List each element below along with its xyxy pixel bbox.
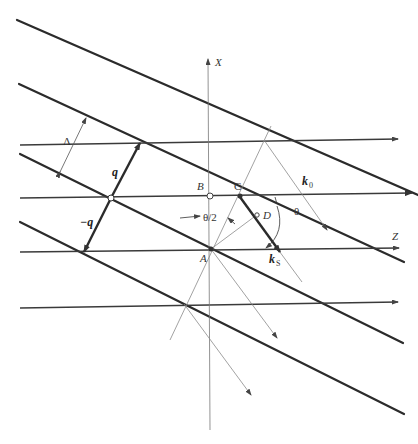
z-axis-label: Z [392, 230, 399, 242]
x-axis [208, 59, 210, 430]
grating-plane-1 [17, 20, 418, 195]
minus-q-label: −q [80, 215, 93, 229]
ks-label: k S [269, 252, 280, 268]
diagram-canvas: X Z Λ q −q A B C D θ/2 θ k 0 k S [0, 0, 418, 444]
point-d-label: D [262, 209, 271, 221]
k0-label: k 0 [302, 174, 313, 190]
point-c-marker [238, 194, 243, 199]
theta-label: θ [294, 205, 299, 217]
construction-line-2 [211, 214, 258, 249]
scatter-ray-2 [211, 249, 277, 338]
point-b-marker [207, 193, 213, 199]
half-theta-arrow-left [180, 216, 200, 218]
lambda-label: Λ [63, 135, 71, 147]
origin-point [108, 195, 114, 201]
horizontal-lines [20, 139, 412, 308]
ks-label-sub: S [276, 259, 280, 268]
point-d-marker [255, 213, 259, 217]
k0-label-main: k [302, 174, 308, 188]
q-label: q [112, 165, 118, 179]
k0-label-sub: 0 [309, 181, 313, 190]
point-b-label: B [197, 180, 204, 192]
ks-vector [240, 197, 280, 252]
point-a-label: A [199, 252, 207, 264]
construction-line-1 [170, 126, 271, 340]
point-a-marker [209, 247, 214, 252]
scatter-ray-3 [184, 304, 251, 395]
construction-lines [170, 126, 327, 395]
half-theta-arrow-right [228, 218, 235, 224]
k0-line [20, 193, 412, 198]
grating-planes [17, 20, 418, 414]
half-theta-label: θ/2 [203, 211, 217, 223]
point-c-label: C [234, 180, 241, 192]
x-axis-label: X [214, 56, 223, 68]
ks-label-main: k [269, 252, 275, 266]
grating-plane-2 [19, 84, 404, 262]
horizontal-line-1 [20, 139, 398, 145]
